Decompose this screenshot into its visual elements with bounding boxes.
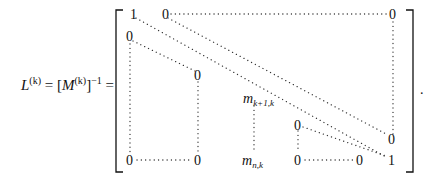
main-diagonal-dots bbox=[136, 18, 386, 157]
left-bracket bbox=[116, 10, 123, 172]
entry-r1c2: 0 bbox=[162, 7, 169, 22]
trailing-period: . bbox=[420, 82, 424, 97]
entry-last-col-zero: 0 bbox=[388, 132, 395, 147]
m-top-subscript: k+1,k bbox=[253, 98, 275, 108]
entry-m-top: mk+1,k bbox=[243, 91, 275, 108]
entry-r1cn: 0 bbox=[389, 7, 396, 22]
right-bracket bbox=[406, 10, 413, 172]
entry-last-one: 1 bbox=[388, 153, 395, 168]
sub-diagonal-dots bbox=[133, 41, 195, 71]
entry-r1c1: 1 bbox=[130, 7, 137, 22]
lower-diagonal-dots bbox=[303, 127, 386, 156]
entry-m-bottom: mn,k bbox=[242, 153, 264, 170]
entry-mid-top-zero: 0 bbox=[194, 68, 201, 83]
entry-right-bottom-zero: 0 bbox=[294, 153, 301, 168]
matrix-equation: L(k) = [M(k)]−1 = 1 0 0 0 bbox=[0, 0, 428, 182]
entry-right-mid-zero: 0 bbox=[294, 118, 301, 133]
entry-bottom-left-zero: 0 bbox=[126, 153, 133, 168]
super-diagonal-dots bbox=[168, 18, 388, 135]
entry-diag-zero: 0 bbox=[356, 153, 363, 168]
matrix-figure: 1 0 0 0 0 0 0 mk+1,k mn,k 0 0 0 0 1 . bbox=[0, 0, 428, 182]
entry-mid-bottom-zero: 0 bbox=[194, 153, 201, 168]
entry-r2c1: 0 bbox=[126, 29, 133, 44]
m-bottom-subscript: n,k bbox=[252, 160, 264, 170]
